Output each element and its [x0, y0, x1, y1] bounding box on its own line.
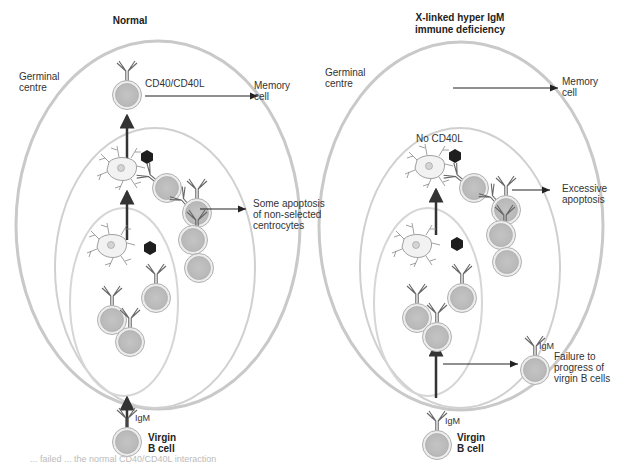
apoptosis-label: Some apoptosis of non-selected centrocyt… — [253, 198, 325, 231]
centroblast — [98, 286, 127, 335]
failure-igm-label: IgM — [539, 341, 554, 352]
centroblast — [448, 264, 477, 313]
memory-cell-label: Memory cell — [254, 80, 290, 102]
excessive-apoptosis-label: Excessive apoptosis — [562, 183, 607, 205]
memory-b-cell — [113, 61, 142, 110]
antigen-upper-2 — [449, 149, 461, 163]
igm-label-2: IgM — [445, 416, 460, 427]
dendritic-cell-upper — [97, 146, 145, 190]
antigen-lower-2 — [451, 237, 463, 251]
diagram-canvas — [0, 0, 621, 466]
panel-normal — [16, 41, 300, 457]
centrocyte — [493, 248, 522, 277]
virgin-b-cell-label-2: Virgin B cell — [457, 432, 485, 454]
dendritic-cell-lower-2 — [392, 223, 440, 267]
figure-caption: ... failed ... the normal CD40/CD40L int… — [30, 454, 216, 464]
failure-label: Failure to progress of virgin B cells — [554, 351, 610, 384]
centroblast — [142, 264, 171, 313]
no-cd40l-label: No CD40L — [416, 133, 463, 144]
igm-label: IgM — [135, 413, 150, 424]
panel-xhim — [319, 42, 603, 460]
memory-cell-label-2: Memory cell — [562, 76, 598, 98]
germinal-centre-label-2: Germinal centre — [325, 67, 366, 89]
interaction-label: CD40/CD40L — [145, 78, 204, 89]
antigen-lower — [144, 241, 156, 255]
antigen-upper — [141, 150, 153, 164]
panel-title-normal: Normal — [100, 15, 160, 27]
dendritic-cell-upper-2 — [405, 144, 453, 188]
centroblast — [403, 284, 432, 333]
germinal-centre-label: Germinal centre — [19, 71, 60, 93]
centrocyte — [185, 254, 214, 283]
virgin-b-cell-label: Virgin B cell — [148, 432, 176, 454]
panel-title-xhim: X-linked hyper IgM immune deficiency — [385, 12, 535, 36]
